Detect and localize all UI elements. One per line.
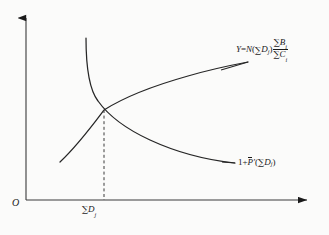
lower-label-p-bar: P <box>248 158 254 167</box>
lower-label-close-paren: ) <box>272 158 275 167</box>
upper-label-d-subscript: j <box>268 49 270 55</box>
plot-canvas <box>0 0 329 235</box>
denominator-subscript: i <box>286 56 288 63</box>
origin-label: O <box>12 198 19 208</box>
lower-label-one-plus: 1+ <box>238 158 248 167</box>
xtick-base: D <box>88 204 95 214</box>
upper-label-leader-line <box>221 62 248 70</box>
upper-label-fraction: ∑Bi ∑Ci <box>272 38 288 62</box>
economics-equilibrium-figure: Y=N(∑Dj) ∑Bi ∑Ci 1+P′(∑Dj) ∑Dj O <box>0 0 329 235</box>
curve-label-upper: Y=N(∑Dj) ∑Bi ∑Ci <box>236 38 288 62</box>
x-axis-tick-label: ∑Dj <box>82 205 96 216</box>
lower-label-leader-line <box>222 162 235 163</box>
denominator-base: C <box>280 49 286 59</box>
lower-label-d-subscript: j <box>271 161 273 167</box>
curve-label-lower: 1+P′(∑Dj) <box>238 158 275 167</box>
fraction-denominator: ∑Ci <box>272 50 288 61</box>
curve-marginal-cost <box>86 38 235 163</box>
numerator-subscript: i <box>285 43 287 50</box>
curve-marginal-benefit <box>60 62 248 162</box>
